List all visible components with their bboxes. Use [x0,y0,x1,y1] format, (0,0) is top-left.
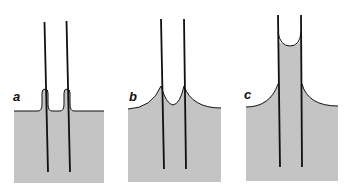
panel-a-surface [14,89,104,111]
panel-b-label: b [129,89,137,104]
panel-c: c [244,15,338,181]
panel-c-label: c [244,87,252,102]
panel-a: a [13,21,104,183]
panel-c-right-plate [301,15,302,167]
panel-b-liquid [128,86,221,182]
panel-b: b [128,19,221,182]
panel-c-liquid [246,40,338,181]
panel-a-label: a [13,89,20,104]
panel-a-liquid [14,89,104,183]
capillary-meniscus-figure: a b c [0,0,353,189]
